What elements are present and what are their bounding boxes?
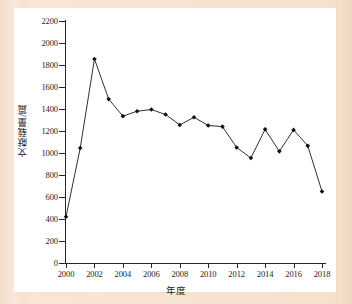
y-tick [59,109,65,110]
x-tick [322,263,323,268]
x-tick [237,263,238,268]
y-tick-label-wrap: 800 [18,171,58,179]
y-axis-line [65,20,66,264]
y-tick [59,65,65,66]
y-tick [59,175,65,176]
y-tick [59,241,65,242]
y-tick-label-wrap: 0 [18,259,58,267]
y-tick [59,131,65,132]
x-tick [151,263,152,268]
y-tick-label: 2000 [22,39,58,47]
y-tick-label: 800 [22,171,58,179]
y-tick [59,87,65,88]
y-tick-label: 600 [22,193,58,201]
y-tick-label: 2200 [22,17,58,25]
y-tick-label: 200 [22,237,58,245]
x-tick [265,263,266,268]
y-tick-label-wrap: 600 [18,193,58,201]
y-axis-title: 文献载量/篇 [16,104,28,157]
x-tick [208,263,209,268]
y-tick-label-wrap: 1600 [18,83,58,91]
y-tick [59,219,65,220]
y-tick [59,43,65,44]
y-tick-label: 0 [22,259,58,267]
x-tick [180,263,181,268]
y-tick [59,197,65,198]
y-tick-label-wrap: 400 [18,215,58,223]
y-tick-label-wrap: 2000 [18,39,58,47]
x-tick [123,263,124,268]
y-tick-label: 1600 [22,83,58,91]
y-tick-label-wrap: 200 [18,237,58,245]
y-tick [59,263,65,264]
y-tick [59,153,65,154]
y-tick [59,21,65,22]
y-tick-label: 400 [22,215,58,223]
y-tick-label: 1800 [22,61,58,69]
chart-axes: 0200400600800100012001400160018002000220… [0,0,352,304]
y-tick-label-wrap: 1800 [18,61,58,69]
x-axis-line [65,263,326,264]
x-tick-label: 2018 [305,269,339,279]
x-tick [94,263,95,268]
y-tick-label-wrap: 2200 [18,17,58,25]
x-axis-title: 年度 [0,283,352,297]
x-tick [66,263,67,268]
x-tick [294,263,295,268]
chart-figure: 0200400600800100012001400160018002000220… [0,0,352,304]
